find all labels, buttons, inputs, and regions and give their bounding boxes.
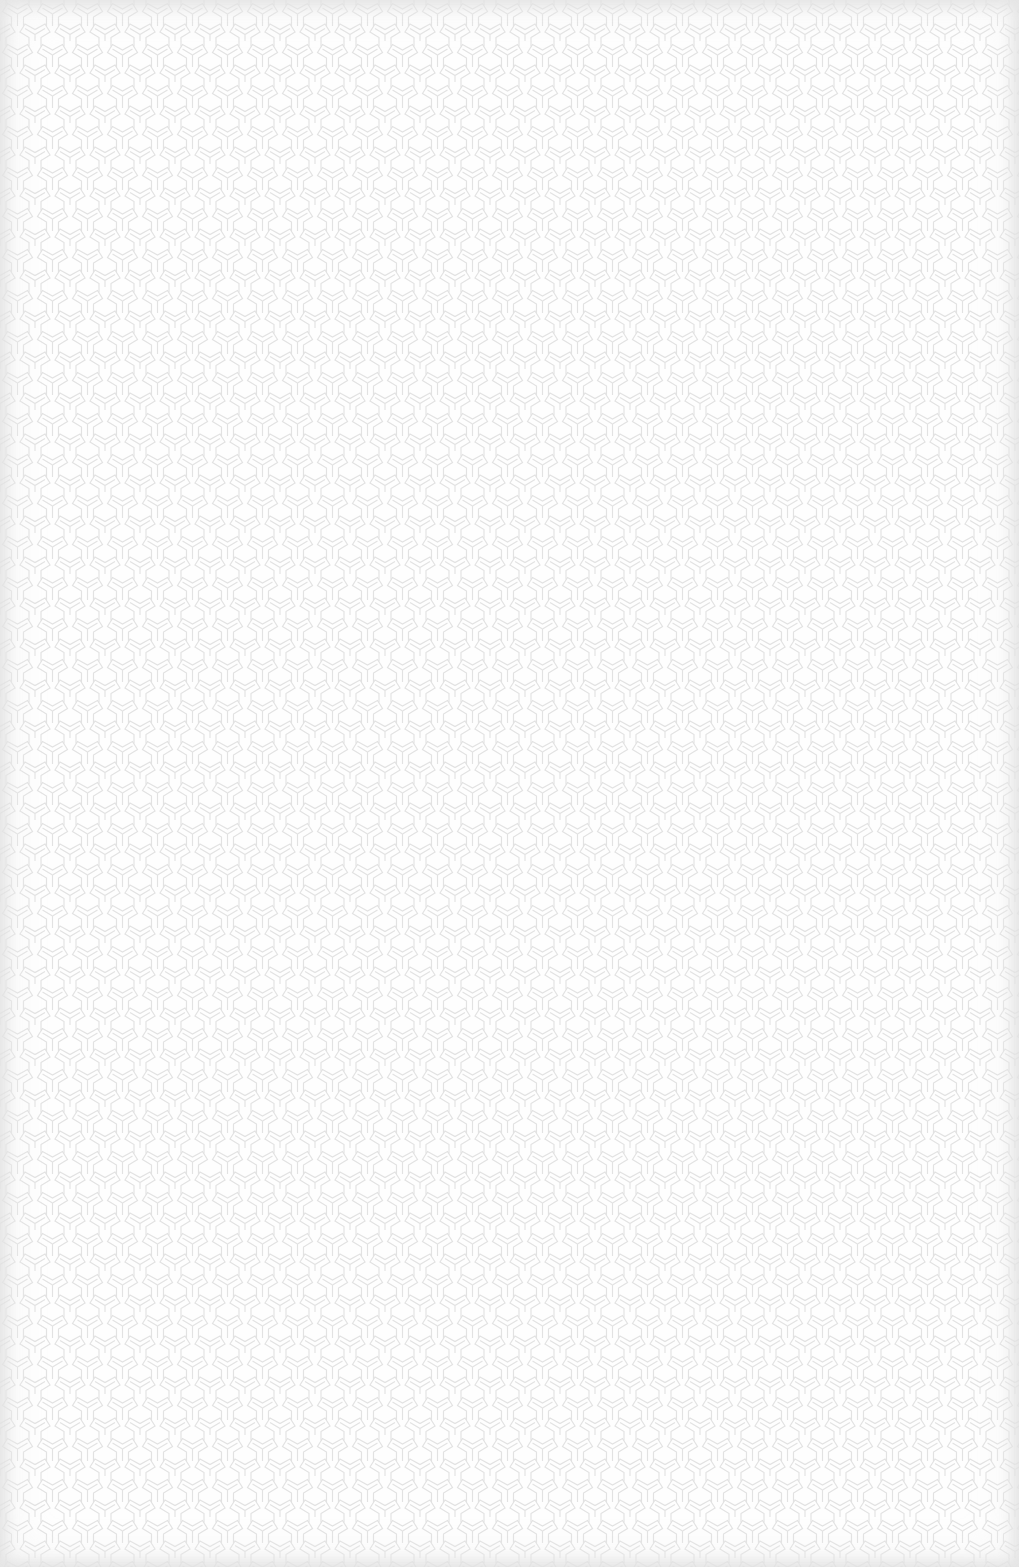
geometric-pattern <box>0 0 1019 1567</box>
texture-canvas: Seamless light geometric texture of inte… <box>0 0 1019 1567</box>
